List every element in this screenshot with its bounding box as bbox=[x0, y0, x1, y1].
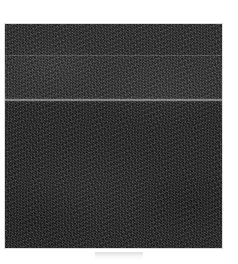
plate-band-upper bbox=[5, 24, 222, 55]
plate-vignette bbox=[5, 24, 222, 248]
plate-band-lower bbox=[5, 100, 222, 248]
plate-tonal-mottling bbox=[5, 24, 222, 248]
scanned-image-plate bbox=[5, 24, 222, 248]
caption-artifact bbox=[95, 252, 143, 260]
plate-seam-lower-glow bbox=[5, 97, 222, 103]
plate-seam-upper bbox=[5, 55, 222, 56]
plate-band-middle bbox=[5, 55, 222, 100]
plate-grain-layer-2 bbox=[5, 24, 222, 248]
plate-grain-layer-3 bbox=[5, 24, 222, 248]
page-canvas bbox=[0, 0, 238, 264]
plate-grain-layer-1 bbox=[5, 24, 222, 248]
plate-seam-lower bbox=[5, 99, 222, 101]
